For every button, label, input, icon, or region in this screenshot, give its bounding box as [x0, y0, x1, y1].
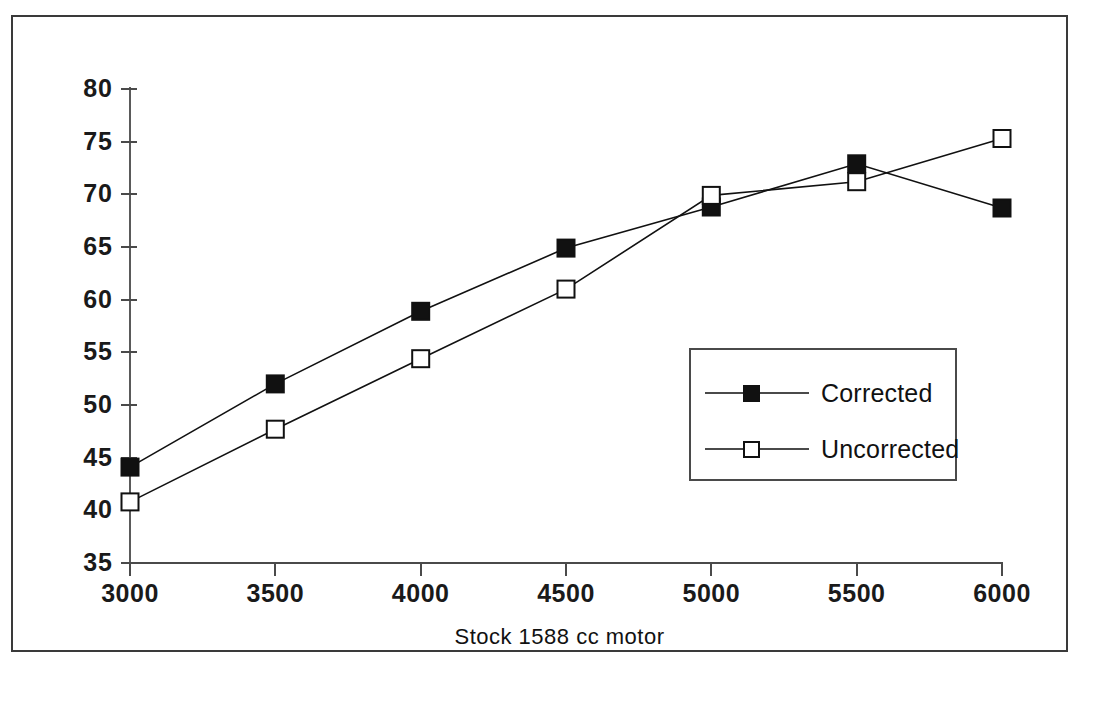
- data-point-corrected-3500: [267, 375, 284, 392]
- data-point-corrected-4500: [558, 240, 575, 257]
- data-point-uncorrected-5500: [848, 173, 865, 190]
- data-point-uncorrected-3000: [122, 493, 139, 510]
- data-point-corrected-4000: [412, 303, 429, 320]
- data-point-uncorrected-3500: [267, 421, 284, 438]
- legend-label-corrected: Corrected: [821, 381, 933, 406]
- legend-entry-uncorrected[interactable]: Uncorrected: [691, 434, 959, 464]
- legend-box: Corrected Uncorrected: [689, 348, 957, 481]
- chart-page: 80757065605550454035 3000350040004500500…: [0, 0, 1093, 705]
- data-point-corrected-6000: [994, 200, 1011, 217]
- data-point-uncorrected-4500: [558, 281, 575, 298]
- filled-square-icon: [743, 385, 760, 402]
- legend-label-uncorrected: Uncorrected: [821, 437, 959, 462]
- x-axis-title: Stock 1588 cc motor: [13, 624, 1093, 650]
- data-point-uncorrected-6000: [994, 130, 1011, 147]
- data-point-corrected-3000: [122, 459, 139, 476]
- legend-entry-corrected[interactable]: Corrected: [691, 378, 959, 408]
- legend-sample-uncorrected: [691, 436, 821, 462]
- figure-frame: 80757065605550454035 3000350040004500500…: [11, 15, 1068, 652]
- open-square-icon: [743, 441, 760, 458]
- data-point-uncorrected-5000: [703, 187, 720, 204]
- data-point-uncorrected-4000: [412, 350, 429, 367]
- legend-sample-corrected: [691, 380, 821, 406]
- data-point-corrected-5500: [848, 155, 865, 172]
